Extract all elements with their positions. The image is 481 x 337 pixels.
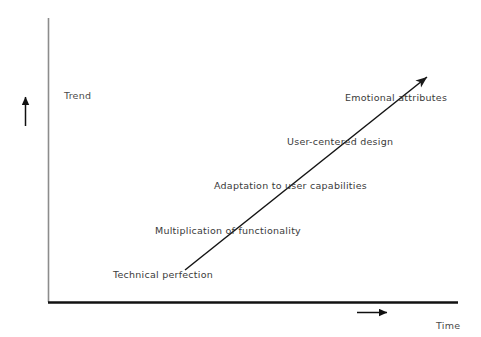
diagram-graphics (0, 0, 481, 337)
x-axis-label: Time (436, 321, 460, 331)
stage-label-multiplication-of-functionality: Multiplication of functionality (155, 226, 301, 236)
diagram-canvas: Trend Time Technical perfection Multipli… (0, 0, 481, 337)
stage-label-emotional-attributes: Emotional attributes (345, 93, 447, 103)
diagonal-arrow-up-right-icon (185, 77, 427, 270)
y-axis-label: Trend (64, 91, 91, 101)
stage-label-adaptation-to-user-capabilities: Adaptation to user capabilities (214, 181, 367, 191)
stage-label-technical-perfection: Technical perfection (113, 270, 213, 280)
stage-label-user-centered-design: User-centered design (287, 137, 393, 147)
